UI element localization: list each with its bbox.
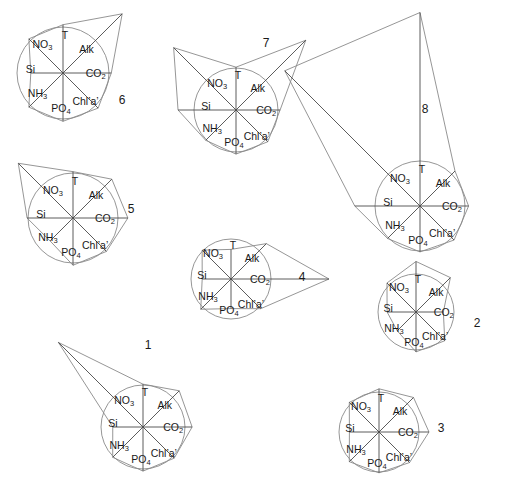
axis-label-Si: Si xyxy=(36,208,45,220)
axis-label-T: T xyxy=(62,29,69,41)
axis-label-NH3: NH3 xyxy=(384,322,403,336)
axis-label-NH3: NH3 xyxy=(28,87,47,101)
axis-label-Alk: Alk xyxy=(158,399,173,411)
axis-label-Alk: Alk xyxy=(393,405,408,417)
axis-label-Alk: Alk xyxy=(245,252,260,264)
axis-label-PO4: PO4 xyxy=(131,453,150,467)
axis-label-NO3: NO3 xyxy=(203,247,223,261)
axis-label-NH3: NH3 xyxy=(110,439,129,453)
axis-label-NH3: NH3 xyxy=(198,290,217,304)
plot-number-2: 2 xyxy=(474,316,481,330)
spoke-NO3 xyxy=(58,342,143,427)
axis-label-Si: Si xyxy=(197,269,206,281)
axis-label-Alk: Alk xyxy=(79,43,94,55)
axis-label-Si: Si xyxy=(345,422,354,434)
axis-label-NO3: NO3 xyxy=(114,394,134,408)
axis-label-Alk: Alk xyxy=(251,82,266,94)
axis-label-T: T xyxy=(142,386,149,398)
axis-label-T: T xyxy=(419,163,426,175)
axis-label-T: T xyxy=(378,392,385,404)
star-plots-canvas: TAlkCO2Chl’a’PO4NH3SiNO31TAlkCO2Chl’a’PO… xyxy=(0,0,506,500)
axis-label-NH3: NH3 xyxy=(203,122,222,136)
axis-label-CO2: CO2 xyxy=(442,200,462,214)
plot-number-4: 4 xyxy=(299,270,306,284)
kite-polygon xyxy=(285,13,469,252)
star-plot-6: TAlkCO2Chl’a’PO4NH3SiNO36 xyxy=(17,14,126,122)
plot-number-3: 3 xyxy=(438,421,445,435)
axis-label-PO4: PO4 xyxy=(404,336,423,350)
axis-label-PO4: PO4 xyxy=(367,457,386,471)
axis-label-T: T xyxy=(230,239,237,251)
axis-label-Chla: Chl’a’ xyxy=(238,298,264,310)
axis-label-CO2: CO2 xyxy=(163,421,183,435)
plot-number-5: 5 xyxy=(128,202,135,216)
spoke-NO3 xyxy=(285,71,420,206)
axis-label-NO3: NO3 xyxy=(351,400,371,414)
axis-label-CO2: CO2 xyxy=(86,67,106,81)
star-plot-8: TAlkCO2Chl’a’PO4NH3SiNO38 xyxy=(285,13,469,252)
axis-label-Chla: Chl’a’ xyxy=(72,95,98,107)
axis-label-PO4: PO4 xyxy=(408,234,427,248)
axis-label-CO2: CO2 xyxy=(250,273,270,287)
axis-label-PO4: PO4 xyxy=(61,246,80,260)
spoke-Alk xyxy=(236,40,306,110)
axis-label-NO3: NO3 xyxy=(33,38,53,52)
axis-label-NO3: NO3 xyxy=(43,184,63,198)
axis-label-PO4: PO4 xyxy=(51,102,70,116)
axis-label-CO2: CO2 xyxy=(434,306,454,320)
axis-label-Alk: Alk xyxy=(89,189,104,201)
axis-label-NH3: NH3 xyxy=(346,443,365,457)
axis-label-NO3: NO3 xyxy=(390,172,410,186)
kite-polygon xyxy=(174,40,306,154)
star-plot-3: TAlkCO2Chl’a’PO4NH3SiNO33 xyxy=(339,389,445,473)
axis-label-Chla: Chl’a’ xyxy=(429,227,455,239)
axis-label-NO3: NO3 xyxy=(207,77,227,91)
axis-label-PO4: PO4 xyxy=(219,304,238,318)
star-plot-7: TAlkCO2Chl’a’PO4NH3SiNO37 xyxy=(174,36,306,154)
axis-label-Si: Si xyxy=(383,196,392,208)
star-plot-1: TAlkCO2Chl’a’PO4NH3SiNO31 xyxy=(58,338,192,471)
axis-label-T: T xyxy=(415,273,422,285)
axis-label-NH3: NH3 xyxy=(38,231,57,245)
axis-label-Si: Si xyxy=(201,100,210,112)
axis-label-NO3: NO3 xyxy=(389,281,409,295)
axis-label-Chla: Chl’a’ xyxy=(244,130,270,142)
axis-label-T: T xyxy=(235,69,242,81)
axis-label-Alk: Alk xyxy=(429,286,444,298)
axis-label-CO2: CO2 xyxy=(256,104,276,118)
axis-label-Chla: Chl’a’ xyxy=(82,239,108,251)
star-plot-figure: TAlkCO2Chl’a’PO4NH3SiNO31TAlkCO2Chl’a’PO… xyxy=(0,0,506,500)
axis-label-CO2: CO2 xyxy=(398,426,418,440)
plot-number-8: 8 xyxy=(422,102,429,116)
axis-label-Chla: Chl’a’ xyxy=(151,447,177,459)
axis-label-NH3: NH3 xyxy=(385,219,404,233)
plot-number-1: 1 xyxy=(145,338,152,352)
axis-label-Si: Si xyxy=(384,302,393,314)
axis-label-Chla: Chl’a’ xyxy=(422,330,448,342)
star-plot-4: TAlkCO2Chl’a’PO4NH3SiNO34 xyxy=(191,239,329,319)
axis-label-Alk: Alk xyxy=(436,177,451,189)
axis-label-CO2: CO2 xyxy=(95,212,115,226)
star-plot-2: TAlkCO2Chl’a’PO4NH3SiNO32 xyxy=(378,261,481,351)
axis-label-PO4: PO4 xyxy=(224,136,243,150)
star-plot-5: TAlkCO2Chl’a’PO4NH3SiNO35 xyxy=(18,163,134,265)
plot-number-7: 7 xyxy=(263,36,270,50)
axis-label-Chla: Chl’a’ xyxy=(386,451,412,463)
axis-label-Si: Si xyxy=(108,417,117,429)
axis-label-Si: Si xyxy=(26,63,35,75)
plot-number-6: 6 xyxy=(119,93,126,107)
axis-label-T: T xyxy=(72,175,79,187)
